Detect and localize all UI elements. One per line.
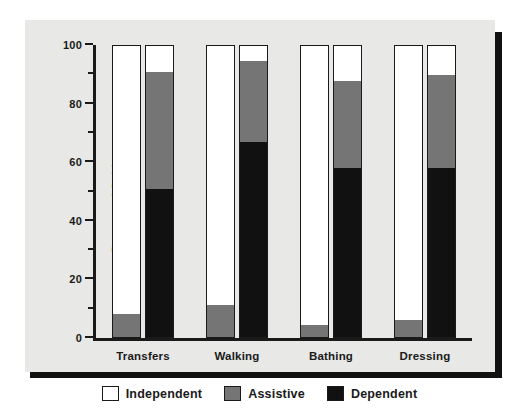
x-axis-category-label: Transfers xyxy=(96,350,190,362)
stacked-bar[interactable] xyxy=(394,45,423,338)
legend-item[interactable]: Independent xyxy=(102,386,203,401)
bar-segment-independent[interactable] xyxy=(146,46,173,72)
bar-segment-assistive[interactable] xyxy=(146,72,173,188)
stacked-bar[interactable] xyxy=(206,45,235,338)
bar-group: Bathing xyxy=(284,45,378,338)
x-axis-category-label: Bathing xyxy=(284,350,378,362)
bar-segment-independent[interactable] xyxy=(113,46,140,314)
y-axis-tick-label: 40 xyxy=(69,215,82,227)
bar-segment-independent[interactable] xyxy=(301,46,328,325)
bar-group: Transfers xyxy=(96,45,190,338)
y-axis-tick-major xyxy=(85,102,93,104)
bar-group: Walking xyxy=(190,45,284,338)
legend-swatch-independent-icon xyxy=(102,386,119,401)
y-axis-tick-minor xyxy=(88,307,93,309)
y-axis-tick-minor xyxy=(88,248,93,250)
bar-segment-assistive[interactable] xyxy=(207,305,234,337)
stacked-bar[interactable] xyxy=(239,45,268,338)
legend-item[interactable]: Dependent xyxy=(327,386,417,401)
stacked-bar[interactable] xyxy=(145,45,174,338)
y-axis-tick-label: 0 xyxy=(76,332,82,344)
bar-segment-independent[interactable] xyxy=(428,46,455,75)
y-axis-tick-major xyxy=(85,336,93,338)
bar-segment-dependent[interactable] xyxy=(240,142,267,337)
plot-area: 020406080100 TransfersWalkingBathingDres… xyxy=(96,45,472,338)
y-axis-tick-major xyxy=(85,219,93,221)
y-axis-tick-label: 100 xyxy=(63,39,82,51)
bar-segment-assistive[interactable] xyxy=(395,320,422,337)
legend-label: Assistive xyxy=(248,387,305,401)
bar-group: Dressing xyxy=(378,45,472,338)
legend-swatch-assistive-icon xyxy=(224,386,241,401)
legend-swatch-dependent-icon xyxy=(327,386,344,401)
bar-segment-independent[interactable] xyxy=(334,46,361,81)
legend-item[interactable]: Assistive xyxy=(224,386,305,401)
bar-segment-dependent[interactable] xyxy=(334,168,361,337)
y-axis-tick-label: 20 xyxy=(69,273,82,285)
bar-segment-assistive[interactable] xyxy=(240,61,267,142)
chart-figure: Percent of Subjects 020406080100 Transfe… xyxy=(0,0,519,413)
bar-segment-dependent[interactable] xyxy=(428,168,455,337)
bar-segment-dependent[interactable] xyxy=(146,189,173,337)
bar-segment-assistive[interactable] xyxy=(334,81,361,168)
x-axis-line xyxy=(93,338,472,341)
y-axis-tick-major xyxy=(85,160,93,162)
y-axis-tick-label: 80 xyxy=(69,98,82,110)
x-axis-category-label: Dressing xyxy=(378,350,472,362)
bar-segment-independent[interactable] xyxy=(395,46,422,320)
y-axis-tick-major xyxy=(85,277,93,279)
y-axis-tick-minor xyxy=(88,190,93,192)
stacked-bar[interactable] xyxy=(300,45,329,338)
stacked-bar[interactable] xyxy=(427,45,456,338)
y-axis-tick-label: 60 xyxy=(69,156,82,168)
y-axis-tick-minor xyxy=(88,72,93,74)
bar-segment-assistive[interactable] xyxy=(428,75,455,168)
bar-segment-independent[interactable] xyxy=(240,46,267,61)
bar-segment-assistive[interactable] xyxy=(113,314,140,337)
y-axis-tick-major xyxy=(85,43,93,45)
y-axis-tick-minor xyxy=(88,131,93,133)
bar-segment-assistive[interactable] xyxy=(301,325,328,337)
stacked-bar[interactable] xyxy=(333,45,362,338)
x-axis-category-label: Walking xyxy=(190,350,284,362)
legend-label: Independent xyxy=(126,387,203,401)
legend-label: Dependent xyxy=(351,387,417,401)
chart-panel: Percent of Subjects 020406080100 Transfe… xyxy=(25,20,495,372)
bar-segment-independent[interactable] xyxy=(207,46,234,305)
stacked-bar[interactable] xyxy=(112,45,141,338)
chart-legend: IndependentAssistiveDependent xyxy=(0,386,519,401)
